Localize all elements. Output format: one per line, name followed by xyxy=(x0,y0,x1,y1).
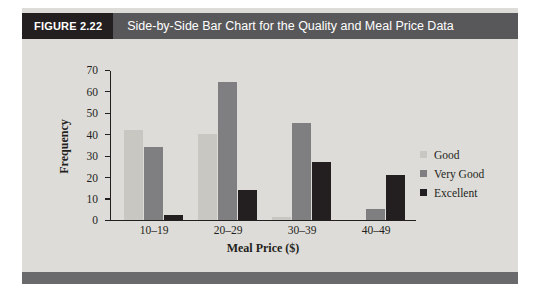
bar-group: 40–49 xyxy=(346,70,406,220)
y-axis-title-label: Frequency xyxy=(57,119,72,173)
bar-group: 20–29 xyxy=(198,70,258,220)
chart-area: Frequency 01020304050607010–1920–2930–39… xyxy=(22,39,518,272)
figure-header-band: FIGURE 2.22 Side-by-Side Bar Chart for t… xyxy=(22,13,518,39)
y-axis-tick-label: 0 xyxy=(92,214,98,226)
bar-group: 30–39 xyxy=(272,70,332,220)
bar-very-good xyxy=(144,147,163,220)
y-axis-tick-label: 70 xyxy=(87,64,99,76)
legend-label: Very Good xyxy=(434,168,484,180)
y-axis-tick: 60 xyxy=(105,91,110,92)
figure-number-tag: FIGURE 2.22 xyxy=(22,13,113,39)
legend-item: Very Good xyxy=(420,164,484,183)
bar-excellent xyxy=(238,190,257,220)
x-axis-tick-label: 40–49 xyxy=(346,224,406,236)
y-axis-tick-label: 50 xyxy=(87,107,99,119)
y-axis-tick-label: 20 xyxy=(87,172,99,184)
y-axis-title: Frequency xyxy=(56,71,72,221)
legend-swatch-icon xyxy=(420,189,427,196)
legend-item: Excellent xyxy=(420,183,484,202)
y-axis-tick: 40 xyxy=(105,134,110,135)
y-axis-tick: 20 xyxy=(105,177,110,178)
bar-good xyxy=(124,130,143,220)
y-axis-tick: 30 xyxy=(105,156,110,157)
bar-excellent xyxy=(386,175,405,220)
bar-excellent xyxy=(164,215,183,219)
x-axis-tick-label: 30–39 xyxy=(272,224,332,236)
figure-container: FIGURE 2.22 Side-by-Side Bar Chart for t… xyxy=(0,0,540,301)
y-axis-line xyxy=(110,71,111,221)
y-axis-tick-label: 60 xyxy=(87,86,99,98)
y-axis-tick-label: 40 xyxy=(87,129,99,141)
y-axis-tick-label: 30 xyxy=(87,150,99,162)
legend-label: Excellent xyxy=(434,187,477,199)
x-axis-tick-label: 20–29 xyxy=(198,224,258,236)
y-axis-tick: 0 xyxy=(105,220,110,221)
bar-good xyxy=(198,134,217,220)
legend-label: Good xyxy=(434,149,460,161)
bar-very-good xyxy=(292,123,311,219)
y-axis-tick: 10 xyxy=(105,198,110,199)
legend-item: Good xyxy=(420,145,484,164)
chart-legend: GoodVery GoodExcellent xyxy=(420,145,484,202)
bar-excellent xyxy=(312,162,331,220)
bar-group: 10–19 xyxy=(124,70,184,220)
bar-very-good xyxy=(218,82,237,219)
bar-very-good xyxy=(366,209,385,220)
bar-good xyxy=(272,217,291,219)
legend-swatch-icon xyxy=(420,151,427,158)
x-axis-line xyxy=(110,220,416,221)
y-axis-tick-label: 10 xyxy=(87,193,99,205)
plot-area: 01020304050607010–1920–2930–3940–49 xyxy=(110,71,398,221)
x-axis-tick-label: 10–19 xyxy=(124,224,184,236)
figure-footer-band xyxy=(22,272,518,284)
x-axis-title: Meal Price ($) xyxy=(110,241,416,256)
figure-caption: Side-by-Side Bar Chart for the Quality a… xyxy=(113,13,454,39)
y-axis-tick: 70 xyxy=(105,70,110,71)
legend-swatch-icon xyxy=(420,170,427,177)
y-axis-tick: 50 xyxy=(105,113,110,114)
